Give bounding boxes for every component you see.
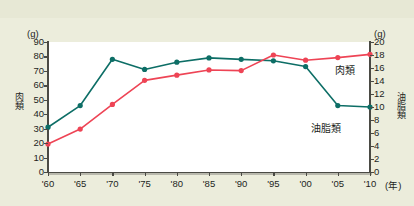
- series-layer: [48, 42, 370, 172]
- data-point: [335, 55, 340, 60]
- y-axis-right-tick: [370, 94, 374, 95]
- x-axis-tick-label: '90: [226, 178, 256, 189]
- y-axis-right-tick: [370, 107, 374, 108]
- y-axis-left-tick: [44, 129, 48, 130]
- x-axis-tick: [112, 172, 113, 176]
- data-point: [271, 58, 276, 63]
- y-axis-right-tick-label: 20: [374, 37, 394, 47]
- x-axis-tick-label: '80: [162, 178, 192, 189]
- y-axis-left-tick-label: 40: [24, 109, 44, 119]
- y-axis-left-tick-label: 60: [24, 80, 44, 90]
- chart-figure: (g) (g) (年) 9080706050403020100 20181614…: [0, 0, 414, 206]
- x-axis-tick-label: '70: [97, 178, 127, 189]
- data-point: [206, 55, 211, 60]
- data-point: [142, 67, 147, 72]
- y-axis-right-tick-label: 18: [374, 50, 394, 60]
- y-axis-left-title: 肉類: [14, 92, 23, 110]
- data-point: [239, 68, 244, 73]
- y-axis-right-tick: [370, 146, 374, 147]
- y-axis-right-ticklabels: 20181614121086420: [374, 0, 396, 206]
- y-axis-right-tick: [370, 120, 374, 121]
- x-axis-tick: [241, 172, 242, 176]
- y-axis-right-tick-label: 4: [374, 141, 394, 151]
- y-axis-right-tick-label: 8: [374, 115, 394, 125]
- data-point: [78, 127, 83, 132]
- y-axis-right-tick-label: 6: [374, 128, 394, 138]
- data-point: [303, 64, 308, 69]
- data-point: [206, 67, 211, 72]
- y-axis-right-tick: [370, 159, 374, 160]
- y-axis-left-tick-label: 10: [24, 153, 44, 163]
- x-axis-tick-label: '00: [291, 178, 321, 189]
- x-axis-tick: [48, 172, 49, 176]
- x-axis-tick: [177, 172, 178, 176]
- y-axis-left-tick: [44, 71, 48, 72]
- x-axis-tick: [80, 172, 81, 176]
- data-point: [174, 73, 179, 78]
- y-axis-left-tick: [44, 143, 48, 144]
- data-point: [110, 57, 115, 62]
- x-axis-tick: [338, 172, 339, 176]
- y-axis-left-tick-label: 90: [24, 37, 44, 47]
- y-axis-left-tick: [44, 158, 48, 159]
- data-point: [142, 78, 147, 83]
- x-axis-tick: [306, 172, 307, 176]
- y-axis-left-tick-label: 50: [24, 95, 44, 105]
- data-point: [110, 102, 115, 107]
- data-point: [335, 103, 340, 108]
- x-axis-tick-label: '95: [258, 178, 288, 189]
- y-axis-right-tick-label: 10: [374, 102, 394, 112]
- paper-band-bottom: [0, 190, 414, 206]
- data-point: [78, 103, 83, 108]
- x-axis-tick-label: '60: [33, 178, 63, 189]
- y-axis-left-tick: [44, 42, 48, 43]
- data-point: [303, 58, 308, 63]
- y-axis-right-tick: [370, 133, 374, 134]
- y-axis-right-tick-label: 2: [374, 154, 394, 164]
- y-axis-left-tick-label: 0: [24, 167, 44, 177]
- data-point: [271, 52, 276, 57]
- y-axis-right-tick-label: 0: [374, 167, 394, 177]
- y-axis-left-tick: [44, 100, 48, 101]
- legend-label-meat: 肉類: [335, 62, 355, 77]
- y-axis-right-tick: [370, 68, 374, 69]
- y-axis-right-tick: [370, 81, 374, 82]
- y-axis-left-tick: [44, 172, 48, 173]
- data-point: [174, 60, 179, 65]
- x-axis-tick-label: '65: [65, 178, 95, 189]
- y-axis-right-title: 油脂類: [396, 92, 405, 119]
- y-axis-right-tick-label: 12: [374, 89, 394, 99]
- y-axis-right-tick: [370, 172, 374, 173]
- x-axis-tick: [209, 172, 210, 176]
- y-axis-left-tick-label: 80: [24, 51, 44, 61]
- y-axis-left-tick-label: 20: [24, 138, 44, 148]
- y-axis-left-ticklabels: 9080706050403020100: [22, 0, 44, 206]
- y-axis-left-tick: [44, 56, 48, 57]
- y-axis-left-tick-label: 70: [24, 66, 44, 76]
- legend-label-fat: 油脂類: [311, 120, 341, 135]
- y-axis-left-tick: [44, 114, 48, 115]
- x-axis-tick: [145, 172, 146, 176]
- y-axis-right-tick-label: 16: [374, 63, 394, 73]
- x-axis-tick-label: '05: [323, 178, 353, 189]
- y-axis-right-tick: [370, 55, 374, 56]
- y-axis-left-tick-label: 30: [24, 124, 44, 134]
- x-axis-tick-label: '10: [355, 178, 385, 189]
- x-axis-tick-label: '85: [194, 178, 224, 189]
- x-axis-tick: [273, 172, 274, 176]
- y-axis-right-tick-label: 14: [374, 76, 394, 86]
- paper-band-top: [0, 0, 414, 18]
- y-axis-right-tick: [370, 42, 374, 43]
- x-axis-tick-label: '75: [130, 178, 160, 189]
- y-axis-left-tick: [44, 85, 48, 86]
- data-point: [239, 57, 244, 62]
